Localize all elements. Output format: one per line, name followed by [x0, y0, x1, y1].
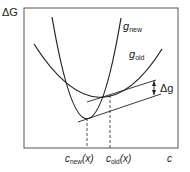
c-old-label: cold(x)	[106, 153, 131, 165]
delta-g-arrow-icon	[152, 81, 156, 95]
g-new-label: gnew	[123, 20, 143, 33]
tangent-line-new	[78, 94, 161, 122]
delta-g-label: Δg	[160, 82, 173, 94]
tangent-line-old	[87, 80, 156, 102]
y-axis-label: ΔG	[2, 6, 18, 18]
g-old-curve	[34, 44, 162, 97]
plot-frame	[24, 8, 178, 148]
g-old-label: gold	[129, 48, 145, 61]
g-new-curve	[52, 17, 121, 119]
free-energy-diagram: ΔG c gnew gold Δg cnew(x) cold(x)	[0, 0, 190, 172]
x-axis-label: c	[167, 153, 172, 164]
c-new-label: cnew(x)	[65, 153, 94, 165]
diagram-canvas: ΔG c gnew gold Δg cnew(x) cold(x)	[0, 0, 190, 172]
